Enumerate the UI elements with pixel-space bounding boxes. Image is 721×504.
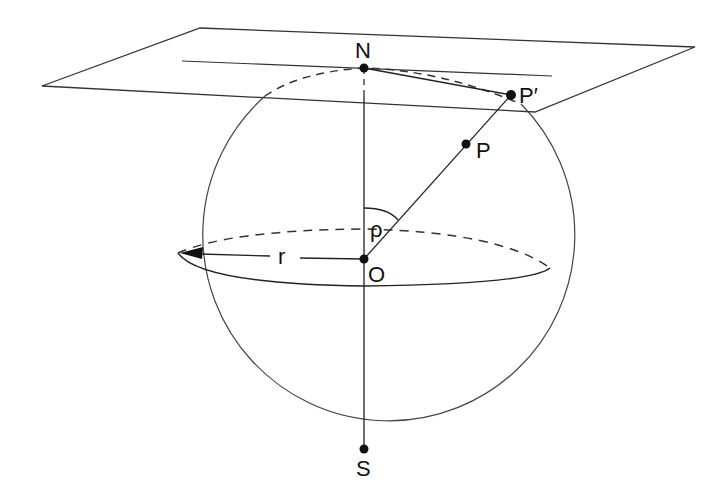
point-S [360,445,369,454]
label-rho: ρ [370,217,383,242]
point-P-prime [506,90,516,100]
label-N: N [355,38,371,63]
radius-line-right [300,258,364,259]
point-P [462,140,471,149]
sphere-outline [203,96,575,421]
label-O: O [368,262,385,287]
label-P: P [476,138,491,163]
radius-line-left [200,254,270,256]
point-N [360,64,369,73]
label-P-prime: P′ [519,83,538,108]
projection-diagram: N P′ P ρ O r S [0,0,721,504]
plane-segment-NP [364,68,511,95]
radius-arrowhead [180,247,203,259]
label-S: S [356,456,371,481]
label-r: r [278,244,285,269]
